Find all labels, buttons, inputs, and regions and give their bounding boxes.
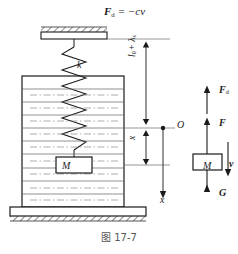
fbd-mass-label: M: [203, 161, 211, 171]
figure-caption: 图 17-7: [0, 233, 238, 243]
fbd-damping-force-label: Fd: [219, 85, 229, 96]
fbd-weight-arrow: [204, 170, 210, 192]
displacement-label: x: [128, 136, 138, 140]
ceiling-support: [41, 27, 107, 39]
x-axis-label: x: [160, 195, 164, 205]
total-length-sub1: 0: [131, 51, 137, 54]
ground-support: [10, 207, 146, 221]
body-structure: [22, 76, 124, 207]
total-length-label: l0+ λs: [128, 35, 138, 57]
top-force-subscript: d: [111, 11, 114, 18]
fbd-weight-label: G: [219, 188, 226, 198]
total-length-plus: + λ: [127, 38, 137, 51]
structure-plate-lines: [22, 89, 124, 194]
dimension-total-length: [143, 42, 149, 126]
fbd-damping-force-symbol: F: [219, 84, 226, 95]
fbd-damping-force-subscript: d: [226, 88, 229, 95]
fbd-spring-force-arrow: [204, 118, 210, 155]
x-axis: [160, 126, 166, 199]
spring-constant-label: k: [77, 60, 81, 70]
total-length-sub2: s: [131, 35, 137, 37]
mass-label: M: [62, 161, 70, 171]
origin-point: [161, 126, 165, 130]
free-body-diagram: [193, 86, 231, 193]
spring: [62, 39, 86, 157]
fbd-damping-force-arrow: [204, 86, 210, 115]
dimension-displacement: [143, 130, 149, 165]
structure-centerlines: [30, 95, 118, 200]
fbd-velocity-label: v: [229, 159, 233, 169]
top-force-label: Fd= −cv: [104, 6, 145, 18]
total-length-main: l: [127, 54, 137, 57]
origin-label: O: [177, 120, 184, 130]
fbd-spring-force-label: F: [219, 118, 226, 128]
figure-container: Fd= −cv k l0+ λs x O x M Fd F M G v 图 17…: [0, 0, 238, 254]
diagram-canvas: [0, 0, 238, 254]
top-force-rhs: = −cv: [118, 5, 145, 17]
